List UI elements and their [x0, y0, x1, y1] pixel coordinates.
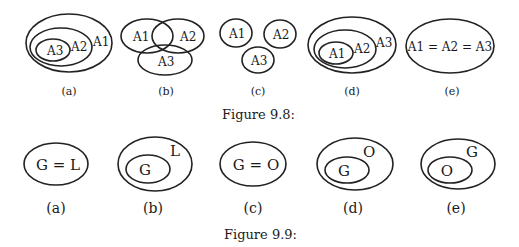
equality-label: G = O [233, 156, 279, 174]
panel-label: (a) [61, 85, 76, 98]
set-a2-label: A2 [179, 30, 196, 44]
set-a2-label: A2 [70, 40, 87, 54]
panel-label: (b) [158, 85, 174, 98]
inner-set-label: G [139, 161, 151, 179]
set-a3-label: A3 [250, 54, 267, 68]
fig98-panel-e: A1 = A2 = A3 (e) [406, 19, 494, 98]
fig98-panel-b: A1 A2 A3 (b) [121, 19, 204, 98]
fig99-panel-a: G = L (a) [24, 143, 88, 216]
outer-set-label: G [466, 143, 478, 161]
outer-set-label: L [170, 142, 180, 160]
outer-set-label: O [363, 143, 375, 161]
fig99-panel-d: G O (d) [317, 138, 393, 216]
set-a3-label: A3 [375, 36, 392, 50]
fig98-panel-a: A3 A2 A1 (a) [26, 14, 112, 98]
panel-label: (e) [446, 200, 465, 216]
panel-label: (a) [46, 200, 65, 216]
set-a3-label: A3 [46, 44, 63, 58]
set-a3-label: A3 [157, 55, 174, 69]
fig99-panel-b: G L (b) [118, 137, 192, 216]
panel-label: (b) [143, 200, 163, 216]
fig99-panel-e: O G (e) [421, 139, 495, 216]
figure-9-8-caption: Figure 9.8: [222, 107, 295, 122]
figure-canvas: A3 A2 A1 (a) A1 A2 A3 (b) A1 A2 A3 (c) A… [0, 0, 519, 247]
equality-label: A1 = A2 = A3 [407, 40, 492, 54]
set-a2-label: A2 [272, 28, 289, 42]
figure-9-9-caption: Figure 9.9: [224, 227, 297, 242]
panel-label: (c) [251, 85, 266, 98]
panel-label: (d) [343, 200, 363, 216]
fig99-panel-c: G = O (c) [220, 142, 286, 216]
panel-label: (c) [244, 200, 263, 216]
set-a1-label: A1 [228, 27, 245, 41]
set-a2-label: A2 [353, 42, 370, 56]
panel-label: (e) [444, 85, 459, 98]
set-a1-label: A1 [132, 30, 149, 44]
fig98-panel-c: A1 A2 A3 (c) [220, 19, 296, 98]
panel-label: (d) [344, 85, 360, 98]
inner-set-label: O [441, 162, 453, 180]
set-a1-label: A1 [92, 35, 109, 49]
set-a1-label: A1 [328, 47, 345, 61]
equality-label: G = L [36, 156, 80, 174]
fig98-panel-d: A1 A2 A3 (d) [308, 17, 396, 98]
inner-set-label: G [338, 162, 350, 180]
